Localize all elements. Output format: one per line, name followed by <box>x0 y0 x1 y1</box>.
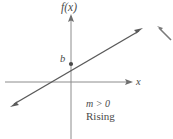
linear-function-figure: f(x) x b m > 0 Rising <box>0 0 173 139</box>
function-line-series <box>10 28 143 107</box>
y-intercept-label: b <box>60 54 65 65</box>
y-axis-label: f(x) <box>61 2 77 14</box>
y-intercept-point-marker <box>69 62 73 66</box>
x-axis-label: x <box>136 77 141 88</box>
adjacent-figure-fragment <box>157 26 171 40</box>
x-axis <box>5 79 133 85</box>
slope-condition-label: m > 0 <box>86 99 110 109</box>
y-axis <box>68 14 74 139</box>
function-line <box>14 31 139 104</box>
behavior-label: Rising <box>86 111 115 122</box>
